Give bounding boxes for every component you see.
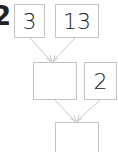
middle-right-box: 2	[84, 62, 117, 100]
top-right-box: 13	[55, 4, 99, 38]
bottom-box[interactable]	[55, 122, 99, 152]
top-right-value: 13	[63, 9, 91, 34]
middle-right-value: 2	[94, 69, 108, 94]
middle-left-box[interactable]	[33, 62, 77, 100]
top-left-value: 3	[23, 9, 37, 34]
top-left-box: 3	[14, 4, 45, 38]
